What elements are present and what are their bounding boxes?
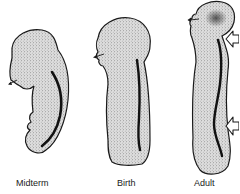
caption-adult: Adult [194, 178, 215, 188]
midterm-figure [8, 30, 69, 153]
adult-figure [188, 2, 240, 175]
birth-body-outline [97, 18, 151, 166]
cervical-curve-hollow-arrow-icon [226, 31, 239, 47]
birth-figure [93, 18, 150, 166]
adult-body-outline [190, 2, 235, 175]
adult-brain-shading [205, 9, 227, 27]
caption-midterm: Midterm [16, 178, 49, 188]
spinal-development-diagram [0, 0, 239, 194]
caption-birth: Birth [117, 178, 136, 188]
